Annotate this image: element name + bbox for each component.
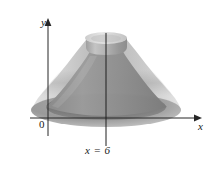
x-axis-label: x: [198, 121, 203, 132]
cut-line-label: x = 6: [85, 145, 110, 156]
figure-container: y x 0 x = 6: [0, 0, 213, 171]
y-axis-label: y: [41, 17, 46, 28]
origin-label: 0: [39, 119, 45, 130]
